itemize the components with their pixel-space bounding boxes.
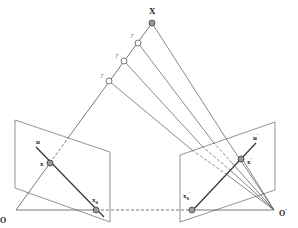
label-q3: ? <box>100 73 103 79</box>
left-ray-dashed <box>50 138 68 163</box>
label-x-prime: x′ <box>247 157 253 166</box>
point-x <box>47 160 53 166</box>
point-candidate-3 <box>106 78 112 84</box>
point-x0 <box>93 207 99 213</box>
ray-x0-prime <box>241 157 274 210</box>
label-x0-prime: x0′ <box>183 191 191 201</box>
ray-q1-lower <box>232 163 274 210</box>
ray-q2-dashed <box>202 146 230 170</box>
label-x: x <box>40 160 44 168</box>
label-O: O <box>0 216 6 225</box>
ray-q1-upper <box>138 43 213 142</box>
point-candidate-2 <box>121 58 127 64</box>
point-X <box>149 20 155 26</box>
right-epipolar-line <box>192 143 256 211</box>
ray-q1-dashed <box>213 142 232 163</box>
ray-q3-upper <box>109 81 192 150</box>
label-O-prime: O′ <box>279 208 287 218</box>
left-epipolar-line <box>36 147 104 217</box>
label-u: u <box>36 138 40 146</box>
ray-q2-lower <box>230 170 274 210</box>
right-image-plane <box>180 122 275 222</box>
point-x0-prime <box>189 207 195 213</box>
label-q2: ? <box>115 53 118 59</box>
ray-q3-dashed <box>192 150 226 174</box>
ray-X-lower <box>227 140 274 210</box>
ray-X-upper <box>152 23 227 140</box>
label-x0: x0 <box>92 196 99 205</box>
label-X: X <box>149 6 156 16</box>
label-u-prime: u′ <box>253 133 259 142</box>
ray-q3-lower <box>226 174 274 210</box>
left-ray-lower <box>16 163 50 210</box>
epipolar-diagram: X ? ? ? u x x0 O u′ x′ x0′ O′ <box>0 0 298 228</box>
point-x-prime <box>238 156 244 162</box>
label-q1: ? <box>130 33 133 39</box>
point-candidate-1 <box>135 40 141 46</box>
